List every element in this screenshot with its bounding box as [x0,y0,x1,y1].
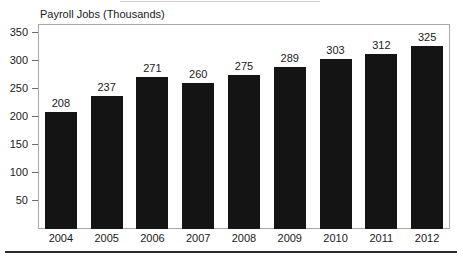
bar-value-label: 275 [222,60,266,73]
y-axis-tick: 100 [0,166,38,179]
bar-value-label: 312 [359,39,403,52]
payroll-jobs-bar-chart: Payroll Jobs (Thousands) 501001502002503… [0,0,463,263]
y-axis-tick-label: 250 [10,82,28,95]
bar-group: 312 [365,24,397,229]
top-divider-rule [120,1,320,2]
bar [136,77,168,229]
bar-group: 208 [45,24,77,229]
bar-group: 237 [91,24,123,229]
bar [365,54,397,229]
x-axis-tick-label: 2009 [268,231,312,245]
bar [91,96,123,229]
y-axis-tick-label: 50 [16,194,28,207]
x-axis-tick-label: 2005 [85,231,129,245]
bar-group: 260 [182,24,214,229]
bar [228,75,260,229]
y-axis-tick: 350 [0,26,38,39]
y-axis-tick-label: 100 [10,166,28,179]
bottom-divider-rule [5,251,457,253]
x-axis-tick-label: 2004 [39,231,83,245]
y-axis-tick-label: 300 [10,54,28,67]
y-axis: 50100150200250300350 [0,24,38,229]
chart-title: Payroll Jobs (Thousands) [40,8,165,21]
x-axis-tick-label: 2010 [314,231,358,245]
bar-group: 303 [320,24,352,229]
bar-value-label: 325 [405,31,449,44]
y-axis-tick-label: 200 [10,110,28,123]
x-axis-tick-label: 2011 [359,231,403,245]
bar [411,46,443,229]
bars-layer: 208237271260275289303312325 [38,24,450,229]
y-axis-tick: 250 [0,82,38,95]
bar [182,83,214,229]
bar-group: 275 [228,24,260,229]
bar-group: 271 [136,24,168,229]
y-axis-tick-label: 350 [10,26,28,39]
x-axis: 200420052006200720082009201020112012 [38,231,450,246]
bar-value-label: 237 [85,81,129,94]
bar-group: 289 [274,24,306,229]
bar-group: 325 [411,24,443,229]
bar-value-label: 289 [268,52,312,65]
x-axis-tick-label: 2012 [405,231,449,245]
bar-value-label: 260 [176,68,220,81]
y-axis-tick: 50 [0,194,38,207]
bar [45,112,77,229]
y-axis-tick: 200 [0,110,38,123]
bar [320,59,352,229]
bar-value-label: 208 [39,97,83,110]
y-axis-tick: 150 [0,138,38,151]
bar-value-label: 271 [130,62,174,75]
x-axis-tick-label: 2008 [222,231,266,245]
bar [274,67,306,229]
y-axis-tick: 300 [0,54,38,67]
bar-value-label: 303 [314,44,358,57]
y-axis-tick-label: 150 [10,138,28,151]
x-axis-tick-label: 2007 [176,231,220,245]
x-axis-tick-label: 2006 [130,231,174,245]
